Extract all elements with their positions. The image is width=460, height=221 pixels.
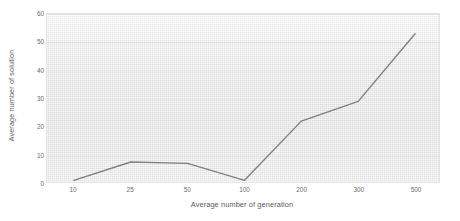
x-tick-label-100: 100	[225, 186, 265, 193]
line-chart-figure: Average number of solution 0102030405060…	[0, 0, 460, 221]
y-tick-label-60: 60	[4, 10, 44, 17]
y-tick-label-50: 50	[4, 38, 44, 45]
x-axis-title: Average number of generation	[44, 200, 440, 209]
plot-area	[46, 13, 440, 183]
series-line-average-number-of-solution	[74, 34, 415, 181]
x-tick-label-300: 300	[339, 186, 379, 193]
data-series-layer	[47, 14, 439, 183]
y-axis-tick-labels: 0102030405060	[0, 13, 44, 183]
y-tick-label-20: 20	[4, 123, 44, 130]
x-tick-label-10: 10	[53, 186, 93, 193]
x-tick-label-25: 25	[110, 186, 150, 193]
x-tick-label-50: 50	[167, 186, 207, 193]
y-tick-label-0: 0	[4, 180, 44, 187]
y-tick-label-10: 10	[4, 151, 44, 158]
x-tick-label-500: 500	[396, 186, 436, 193]
y-tick-label-30: 30	[4, 95, 44, 102]
y-tick-label-40: 40	[4, 66, 44, 73]
x-axis-tick-labels: 102550100200300500	[46, 186, 440, 198]
x-tick-label-200: 200	[282, 186, 322, 193]
